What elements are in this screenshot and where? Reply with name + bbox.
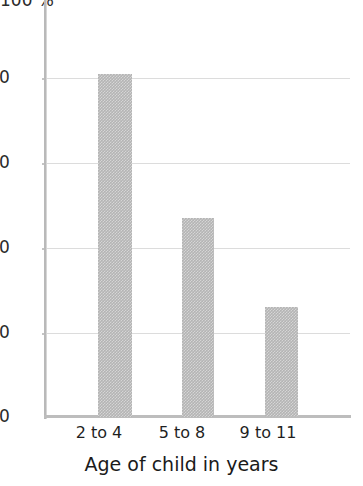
x-tick-label-9-to-11: 9 to 11	[234, 423, 302, 442]
x-tick-label-5-to-8: 5 to 8	[151, 423, 213, 442]
bar-2-to-4	[98, 74, 132, 417]
x-tick-label-2-to-4: 2 to 4	[68, 423, 130, 442]
bars-layer	[47, 0, 350, 417]
bar-chart: 100 % 80 60 40 20 0 2 to 4 5 to 8 9 to 1…	[0, 0, 363, 486]
y-tick-label-60-text: 60	[0, 152, 10, 172]
y-tick-label-40-text: 40	[0, 237, 10, 257]
y-tick-label-80-text: 80	[0, 67, 10, 87]
bar-9-to-11	[265, 307, 298, 417]
bar-5-to-8	[182, 218, 214, 417]
y-tick-label-20-text: 20	[0, 322, 10, 342]
x-axis-title: Age of child in years	[0, 453, 363, 475]
y-tick-label-0-text: 0	[0, 406, 10, 426]
